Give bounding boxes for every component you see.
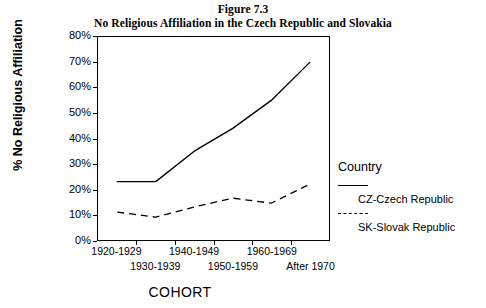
figure-container: Figure 7.3 No Religious Affiliation in t… — [0, 0, 486, 308]
y-tick-label: 0% — [57, 235, 91, 246]
legend-item-cz: CZ-Czech Republic — [338, 182, 486, 210]
y-tick-label: 10% — [57, 209, 91, 220]
y-axis-title: % No Religious Affiliation — [11, 0, 25, 195]
plot-lines — [98, 37, 329, 240]
x-tick-label: After 1970 — [273, 261, 349, 272]
line-series-sk — [117, 184, 309, 217]
legend: Country CZ-Czech Republic SK-Slovak Repu… — [338, 160, 486, 238]
legend-title: Country — [338, 160, 486, 174]
x-tick-label: 1930-1939 — [117, 261, 193, 272]
y-tick-label: 60% — [57, 81, 91, 92]
legend-item-sk: SK-Slovak Republic — [338, 210, 486, 238]
y-tick-label: 50% — [57, 107, 91, 118]
figure-number: Figure 7.3 — [0, 2, 486, 16]
y-tick-mark — [93, 241, 97, 242]
legend-label-cz: CZ-Czech Republic — [358, 193, 453, 205]
y-tick-label: 20% — [57, 184, 91, 195]
x-tick-label: 1940-1949 — [156, 246, 232, 257]
x-axis-title: COHORT — [0, 284, 360, 300]
figure-title: No Religious Affiliation in the Czech Re… — [0, 16, 486, 30]
legend-swatch-solid-icon — [338, 185, 368, 186]
x-tick-label: 1950-1959 — [195, 261, 271, 272]
y-tick-label: 30% — [57, 158, 91, 169]
figure-title-block: Figure 7.3 No Religious Affiliation in t… — [0, 2, 486, 30]
plot-area — [97, 36, 330, 241]
legend-swatch-dashed-icon — [338, 213, 368, 214]
line-series-cz — [117, 62, 309, 181]
legend-label-sk: SK-Slovak Republic — [358, 221, 455, 233]
y-tick-label: 40% — [57, 133, 91, 144]
y-tick-label: 70% — [57, 56, 91, 67]
y-tick-label: 80% — [57, 30, 91, 41]
x-tick-label: 1960-1969 — [234, 246, 310, 257]
x-tick-label: 1920-1929 — [78, 246, 154, 257]
